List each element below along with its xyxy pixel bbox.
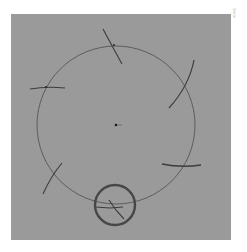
diagram-panel bbox=[11, 14, 231, 240]
construction-mark-lower-left bbox=[43, 163, 62, 194]
intersection-point-left bbox=[45, 86, 47, 88]
construction-mark-left bbox=[30, 87, 65, 89]
construction-mark-bottom bbox=[109, 200, 124, 219]
intersection-point-top bbox=[113, 44, 115, 46]
construction-mark-lower-right bbox=[162, 164, 201, 166]
construction-diagram bbox=[11, 14, 231, 240]
construction-mark-bottom-horizontal bbox=[95, 207, 123, 208]
side-label: 5mm bbox=[232, 8, 237, 18]
page: 5mm bbox=[0, 0, 247, 252]
construction-mark-top-right bbox=[169, 60, 194, 108]
highlight-circle bbox=[95, 185, 135, 225]
center-point bbox=[115, 124, 118, 127]
